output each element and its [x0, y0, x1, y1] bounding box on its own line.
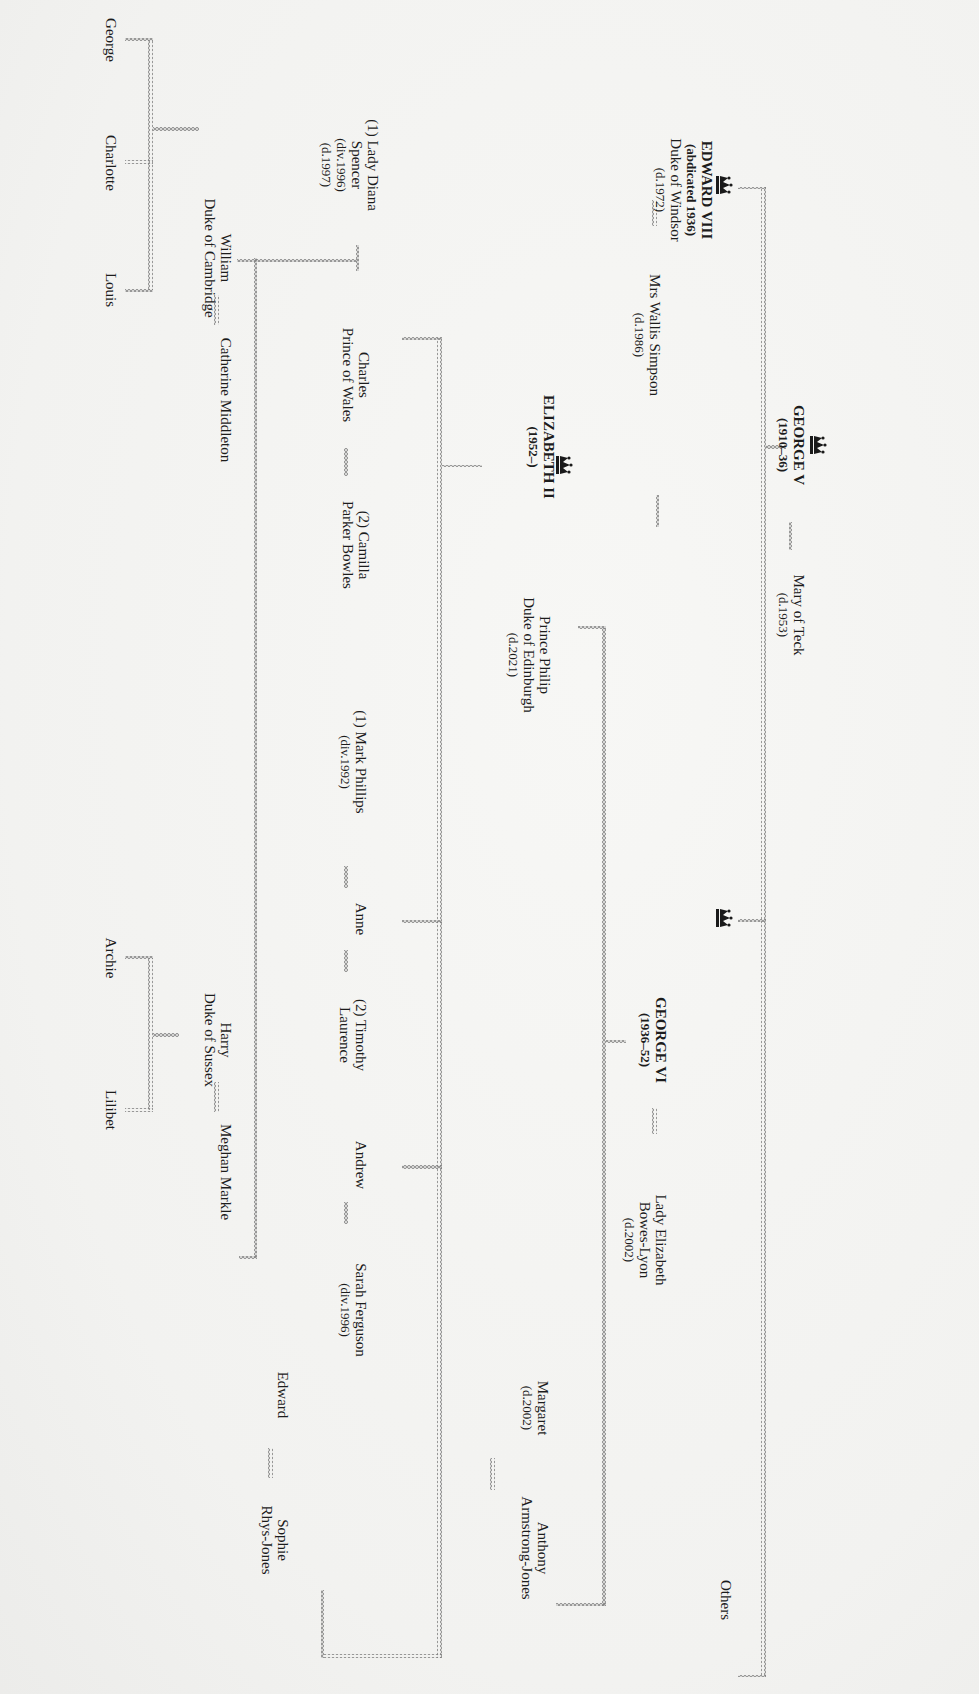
- person-title: Duke of Edinburgh: [521, 597, 537, 713]
- person-name: Catherine Middleton: [218, 338, 234, 463]
- person-name: Sarah Ferguson: [353, 1263, 369, 1356]
- person-name: Lilibet: [103, 1090, 119, 1130]
- person-archie: Archie: [103, 938, 119, 979]
- person-charlotte: Charlotte: [103, 135, 119, 191]
- reign-dates: (abdicated 1936): [684, 138, 699, 241]
- person-name-line2: Armstrong-Jones: [519, 1496, 535, 1599]
- death-date: (d.1953): [776, 574, 791, 655]
- death-date: (d.1986): [632, 274, 647, 396]
- person-name: Archie: [103, 938, 119, 979]
- person-name: Lady Elizabeth: [653, 1194, 669, 1285]
- person-name: Charlotte: [103, 135, 119, 191]
- person-name-line2: Bowes-Lyon: [637, 1194, 653, 1285]
- person-name-line2: Rhys-Jones: [259, 1505, 275, 1574]
- person-margaret: Margaret (d.2002): [520, 1381, 551, 1436]
- person-name: Sophie: [275, 1505, 291, 1574]
- death-date: (d.1972): [653, 138, 668, 241]
- person-prince-philip: Prince Philip Duke of Edinburgh (d.2021): [506, 597, 553, 713]
- person-name: Meghan Markle: [218, 1124, 234, 1220]
- person-name: (2) Timothy: [353, 999, 369, 1071]
- person-lilibet: Lilibet: [103, 1090, 119, 1130]
- crown-icon: [715, 174, 733, 196]
- person-harry: Harry Duke of Sussex: [202, 993, 234, 1087]
- person-edward-viii: EDWARD VIII (abdicated 1936) Duke of Win…: [653, 138, 715, 241]
- reign-dates: (1936–52): [638, 997, 653, 1083]
- person-name-line2: Spencer: [349, 119, 365, 211]
- person-name: William: [218, 198, 234, 317]
- person-anne: Anne: [353, 903, 369, 936]
- person-sarah-ferguson: Sarah Ferguson (div.1996): [338, 1263, 369, 1356]
- divorce-date: (div.1996): [338, 1263, 353, 1356]
- person-name: Prince Philip: [537, 597, 553, 713]
- divorce-date: (div.1996): [334, 119, 349, 211]
- person-title: Prince of Wales: [340, 328, 356, 422]
- marriage-links: [214, 200, 794, 1490]
- person-name: (1) Lady Diana: [365, 119, 381, 211]
- person-timothy-laurence: (2) Timothy Laurence: [337, 999, 369, 1071]
- person-name: EDWARD VIII: [699, 138, 715, 241]
- death-date: (d.2002): [520, 1381, 535, 1436]
- crown-icon: [715, 907, 733, 929]
- person-title: Duke of Cambridge: [202, 198, 218, 317]
- tree-connector-lines: [0, 0, 979, 1694]
- crown-icon: [809, 434, 827, 456]
- person-elizabeth-ii: ELIZABETH II (1952–): [526, 395, 557, 499]
- person-title: Duke of Windsor: [668, 138, 684, 241]
- person-name: Andrew: [353, 1141, 369, 1189]
- divorce-date: (div.1992): [338, 710, 353, 813]
- person-wallis-simpson: Mrs Wallis Simpson (d.1986): [632, 274, 663, 396]
- person-name: Mary of Teck: [791, 574, 807, 655]
- person-name: Anthony: [535, 1496, 551, 1599]
- person-name: Charles: [356, 328, 372, 422]
- person-name: Harry: [218, 993, 234, 1087]
- person-diana-spencer: (1) Lady Diana Spencer (div.1996) (d.199…: [319, 119, 381, 211]
- death-date: (d.1997): [319, 119, 334, 211]
- person-name-line2: Parker Bowles: [340, 501, 356, 589]
- person-sophie-rhys-jones: Sophie Rhys-Jones: [259, 1505, 291, 1574]
- person-name: (1) Mark Phillips: [353, 710, 369, 813]
- person-anthony-armstrong-jones: Anthony Armstrong-Jones: [519, 1496, 551, 1599]
- person-george-v: GEORGE V (1910–36): [776, 405, 807, 485]
- person-name: Louis: [103, 273, 119, 307]
- person-name: Mrs Wallis Simpson: [647, 274, 663, 396]
- reign-dates: (1910–36): [776, 405, 791, 485]
- crown-icon: [555, 454, 573, 476]
- family-tree-canvas: GEORGE V (1910–36) Mary of Teck (d.1953)…: [0, 0, 979, 1694]
- person-name: ELIZABETH II: [541, 395, 557, 499]
- death-date: (d.2002): [622, 1194, 637, 1285]
- person-name: GEORGE VI: [653, 997, 669, 1083]
- person-edward: Edward: [275, 1372, 291, 1419]
- person-louis: Louis: [103, 273, 119, 307]
- death-date: (d.2021): [506, 597, 521, 713]
- person-others: Others: [718, 1580, 734, 1620]
- person-mark-phillips: (1) Mark Phillips (div.1992): [338, 710, 369, 813]
- person-name: GEORGE V: [791, 405, 807, 485]
- person-name-line2: Laurence: [337, 999, 353, 1071]
- person-meghan-markle: Meghan Markle: [218, 1124, 234, 1220]
- person-mary-of-teck: Mary of Teck (d.1953): [776, 574, 807, 655]
- person-william: William Duke of Cambridge: [202, 198, 234, 317]
- person-name: George: [103, 18, 119, 62]
- person-title: Duke of Sussex: [202, 993, 218, 1087]
- person-elizabeth-bowes-lyon: Lady Elizabeth Bowes-Lyon (d.2002): [622, 1194, 669, 1285]
- person-charles: Charles Prince of Wales: [340, 328, 372, 422]
- person-camilla-parker-bowles: (2) Camilla Parker Bowles: [340, 501, 372, 589]
- person-name: Others: [718, 1580, 734, 1620]
- person-george-vi: GEORGE VI (1936–52): [638, 997, 669, 1083]
- reign-dates: (1952–): [526, 395, 541, 499]
- person-andrew: Andrew: [353, 1141, 369, 1189]
- person-name: (2) Camilla: [356, 501, 372, 589]
- person-name: Anne: [353, 903, 369, 936]
- person-catherine-middleton: Catherine Middleton: [218, 338, 234, 463]
- person-george: George: [103, 18, 119, 62]
- person-name: Margaret: [535, 1381, 551, 1436]
- person-name: Edward: [275, 1372, 291, 1419]
